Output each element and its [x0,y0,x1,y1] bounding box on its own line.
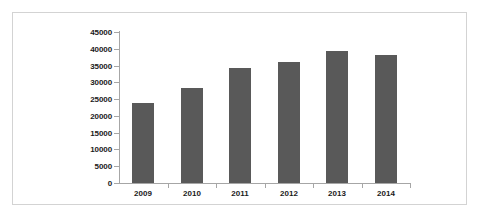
x-axis-tick [168,184,169,188]
y-axis-tick-label: 5000 [66,162,112,171]
y-axis-tick-label: 45000 [66,28,112,37]
y-axis-tick-label-text: 30000 [66,78,112,87]
bar-2010 [181,88,203,183]
bar-2013 [326,51,348,183]
y-axis-tick-label: 20000 [66,112,112,121]
bar-2009 [132,103,154,183]
bar-2012 [278,62,300,183]
y-axis-tick-label-text: 15000 [66,129,112,138]
x-axis-tick [313,184,314,188]
x-axis-tick [265,184,266,188]
bar-2014 [375,55,397,183]
y-axis-tick-label-text: 5000 [66,162,112,171]
x-axis-tick-label-2009: 2009 [123,189,163,199]
x-axis-tick-label-2011: 2011 [220,189,260,199]
y-axis-tick-label-text: 10000 [66,145,112,154]
x-axis-tick [410,184,411,188]
y-axis-tick-label: 25000 [66,95,112,104]
y-axis-tick [114,183,119,184]
y-axis-tick-label: 40000 [66,45,112,54]
y-axis-tick-label-text: 45000 [66,28,112,37]
x-axis-tick-label-2013: 2013 [317,189,357,199]
y-axis-tick-label-text: 40000 [66,45,112,54]
chart-figure: 0500010000150002000025000300003500040000… [0,0,480,218]
y-axis-tick-label-text: 0 [66,179,112,188]
y-axis-tick-label: 30000 [66,78,112,87]
y-axis-tick-label: 0 [66,179,112,188]
y-axis-tick-label: 35000 [66,62,112,71]
y-axis-tick-label: 15000 [66,129,112,138]
y-axis-tick-label-text: 35000 [66,62,112,71]
y-axis-tick-label: 10000 [66,145,112,154]
y-axis-tick-label-text: 25000 [66,95,112,104]
plot-area [119,32,410,183]
x-axis-tick [216,184,217,188]
x-axis-tick [362,184,363,188]
x-axis-tick-label-2012: 2012 [269,189,309,199]
x-axis-tick-label-2010: 2010 [172,189,212,199]
bar-2011 [229,68,251,183]
x-axis-tick-label-2014: 2014 [366,189,406,199]
y-axis-tick-label-text: 20000 [66,112,112,121]
